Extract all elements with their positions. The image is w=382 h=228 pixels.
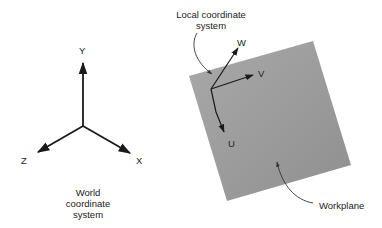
local-caption: Local coordinate system xyxy=(174,9,248,31)
local-caption-leader-arrow xyxy=(194,33,212,74)
world-caption-line3: system xyxy=(58,209,118,220)
world-z-axis xyxy=(38,126,83,152)
world-caption: World coordinate system xyxy=(58,187,118,220)
workplane-surface xyxy=(189,41,351,201)
coordinate-systems-diagram: Y Z X World coordinate system Local coor… xyxy=(0,0,382,228)
local-w-label: W xyxy=(237,37,246,48)
world-caption-line1: World xyxy=(58,187,118,198)
local-caption-line2: system xyxy=(174,20,248,31)
world-z-label: Z xyxy=(21,155,27,166)
local-caption-line1: Local coordinate xyxy=(174,9,248,20)
world-x-label: X xyxy=(136,155,142,166)
world-caption-line2: coordinate xyxy=(58,198,118,209)
world-x-axis xyxy=(83,126,130,153)
local-u-label: U xyxy=(228,138,235,149)
local-v-label: V xyxy=(258,68,264,79)
world-y-label: Y xyxy=(79,45,85,56)
workplane-label: Workplane xyxy=(319,200,364,211)
world-axes xyxy=(38,63,130,153)
